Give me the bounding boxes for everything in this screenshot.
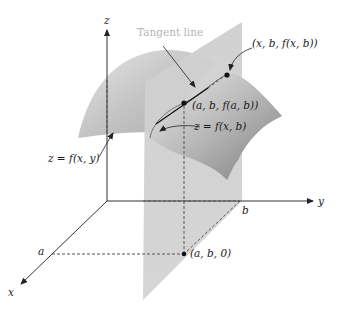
point-a-b-fab: [181, 100, 186, 105]
partial-derivative-diagram: z y x a b Tangent line (x, b, f(x, b)) (…: [0, 0, 338, 312]
tangent-line-label: Tangent line: [137, 26, 203, 38]
surface-leader: [99, 133, 113, 157]
point-x-b-fxb: [224, 72, 229, 77]
point-xb-label: (x, b, f(x, b)): [252, 37, 318, 49]
x-axis-label: x: [8, 286, 14, 298]
surface-label: z = f(x, y): [47, 152, 100, 164]
point-ab0-label: (a, b, 0): [190, 247, 231, 259]
curve-label: z = f(x, b): [193, 120, 246, 132]
tick-b-label: b: [242, 204, 249, 216]
x-axis: [21, 201, 107, 284]
y-axis-label: y: [317, 195, 325, 207]
z-axis-label: z: [103, 14, 110, 26]
point-a-b-0: [182, 252, 187, 257]
tick-a-label: a: [38, 245, 44, 257]
point-ab-fab-label: (a, b, f(a, b)): [192, 99, 258, 111]
